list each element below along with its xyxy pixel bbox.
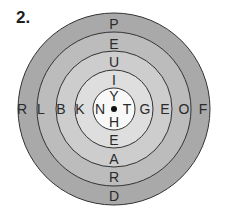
letter-left-1: R [17,101,27,117]
letter-bottom-2: E [109,132,118,148]
letter-top-3: U [109,54,119,70]
letter-right-4: O [179,101,190,117]
concentric-target-diagram: R L B K N T G E O F P E U I Y H E A R D [0,0,227,214]
letter-top-4: I [112,72,116,88]
letter-bottom-1: H [109,114,119,130]
letter-right-2: G [140,101,151,117]
letter-left-5: N [95,101,105,117]
letter-bottom-5: D [109,188,119,204]
letter-right-1: T [123,101,132,117]
letter-top-2: E [109,36,118,52]
letter-right-3: E [160,101,169,117]
letter-bottom-4: R [109,169,119,185]
letter-top-5: Y [109,88,119,104]
letter-top-1: P [109,16,118,32]
letter-left-4: K [75,101,85,117]
center-dot [111,106,117,112]
letter-left-3: B [56,101,65,117]
letter-bottom-3: A [109,151,119,167]
letter-left-2: L [37,101,45,117]
letter-right-5: F [199,101,208,117]
